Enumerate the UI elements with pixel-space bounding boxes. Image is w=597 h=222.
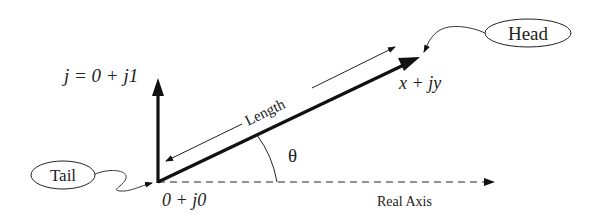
head-point-label: x + jy (398, 73, 441, 93)
tail-callout-leader (95, 171, 152, 192)
tail-callout-label: Tail (50, 166, 76, 185)
imaginary-arrowhead-icon (152, 78, 164, 96)
angle-arc (257, 135, 277, 182)
angle-label: θ (288, 145, 297, 166)
length-arrow-lower (166, 124, 242, 161)
origin-label: 0 + j0 (162, 190, 206, 210)
real-axis-arrowhead-icon (484, 178, 495, 186)
head-callout-label: Head (508, 23, 549, 44)
phasor-vector (158, 63, 408, 182)
phasor-diagram: Length θ j = 0 + j1 x + jy 0 + j0 Real A… (0, 0, 597, 222)
length-arrow-upper (312, 47, 395, 88)
real-axis-label: Real Axis (377, 194, 432, 209)
imaginary-unit-label: j = 0 + j1 (61, 65, 138, 86)
head-callout-leader (424, 26, 485, 52)
phasor-arrowhead-icon (398, 57, 420, 71)
diagram-canvas: Length θ j = 0 + j1 x + jy 0 + j0 Real A… (0, 0, 597, 222)
